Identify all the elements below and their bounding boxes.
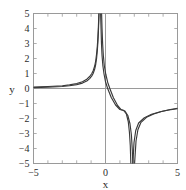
y-tick-label: −3	[19, 128, 30, 139]
y-axis-label: y	[9, 83, 15, 95]
x-tick-label: −5	[28, 167, 39, 178]
x-tick-label: 5	[175, 167, 180, 178]
y-tick-label: −1	[19, 98, 30, 109]
x-tick-label: 0	[103, 167, 108, 178]
y-tick-label: 1	[25, 68, 30, 79]
y-tick-label: 0	[25, 83, 30, 94]
y-tick-label: −2	[19, 113, 30, 124]
y-tick-label: 4	[25, 23, 30, 34]
x-axis-label: x	[103, 178, 109, 190]
y-tick-label: −4	[19, 143, 30, 154]
y-tick-label: 3	[25, 38, 30, 49]
y-tick-label: 2	[25, 53, 30, 64]
line-chart: −5−4−3−2−1012345−505 x y	[0, 0, 186, 189]
chart-container: −5−4−3−2−1012345−505 x y	[0, 0, 186, 189]
y-tick-label: 5	[25, 8, 30, 19]
